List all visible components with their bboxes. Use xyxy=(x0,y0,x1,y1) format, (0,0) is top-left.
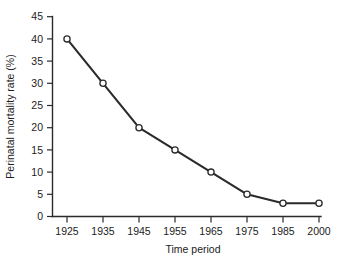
x-axis-tick-labels: 1925 1935 1945 1955 1965 1975 1985 2000 xyxy=(55,225,331,237)
y-axis-ticks xyxy=(47,17,53,217)
figure-container: 0 5 10 15 20 25 30 35 40 45 1925 1935 19 xyxy=(0,0,344,265)
x-tick-label: 1965 xyxy=(199,225,223,237)
x-tick-label: 1945 xyxy=(127,225,151,237)
data-point-marker xyxy=(64,36,70,42)
x-tick-label: 1925 xyxy=(55,225,79,237)
figure-caption-fragment xyxy=(6,256,326,265)
y-tick-label: 15 xyxy=(31,144,43,156)
x-tick-label: 1985 xyxy=(271,225,295,237)
y-tick-label: 10 xyxy=(31,166,43,178)
data-point-marker xyxy=(208,169,214,175)
y-axis-title: Perinatal mortality rate (%) xyxy=(4,54,16,178)
x-tick-label: 1935 xyxy=(91,225,115,237)
data-point-marker xyxy=(244,191,250,197)
y-tick-label: 40 xyxy=(31,33,43,45)
series-line xyxy=(67,39,319,203)
x-axis-ticks xyxy=(67,217,319,223)
y-axis-tick-labels: 0 5 10 15 20 25 30 35 40 45 xyxy=(31,10,43,222)
x-tick-label: 2000 xyxy=(307,225,331,237)
data-series-perinatal-mortality xyxy=(64,36,322,206)
x-axis-title: Time period xyxy=(165,243,220,255)
y-tick-label: 35 xyxy=(31,55,43,67)
data-point-marker xyxy=(136,125,142,131)
x-tick-label: 1955 xyxy=(163,225,187,237)
x-tick-label: 1975 xyxy=(235,225,259,237)
data-point-marker xyxy=(280,200,286,206)
y-tick-label: 5 xyxy=(37,188,43,200)
y-tick-label: 30 xyxy=(31,77,43,89)
series-markers xyxy=(64,36,322,206)
data-point-marker xyxy=(316,200,322,206)
line-chart: 0 5 10 15 20 25 30 35 40 45 1925 1935 19 xyxy=(0,0,344,265)
y-tick-label: 45 xyxy=(31,10,43,22)
y-tick-label: 20 xyxy=(31,121,43,133)
y-tick-label: 25 xyxy=(31,99,43,111)
y-tick-label: 0 xyxy=(37,210,43,222)
data-point-marker xyxy=(100,80,106,86)
data-point-marker xyxy=(172,147,178,153)
